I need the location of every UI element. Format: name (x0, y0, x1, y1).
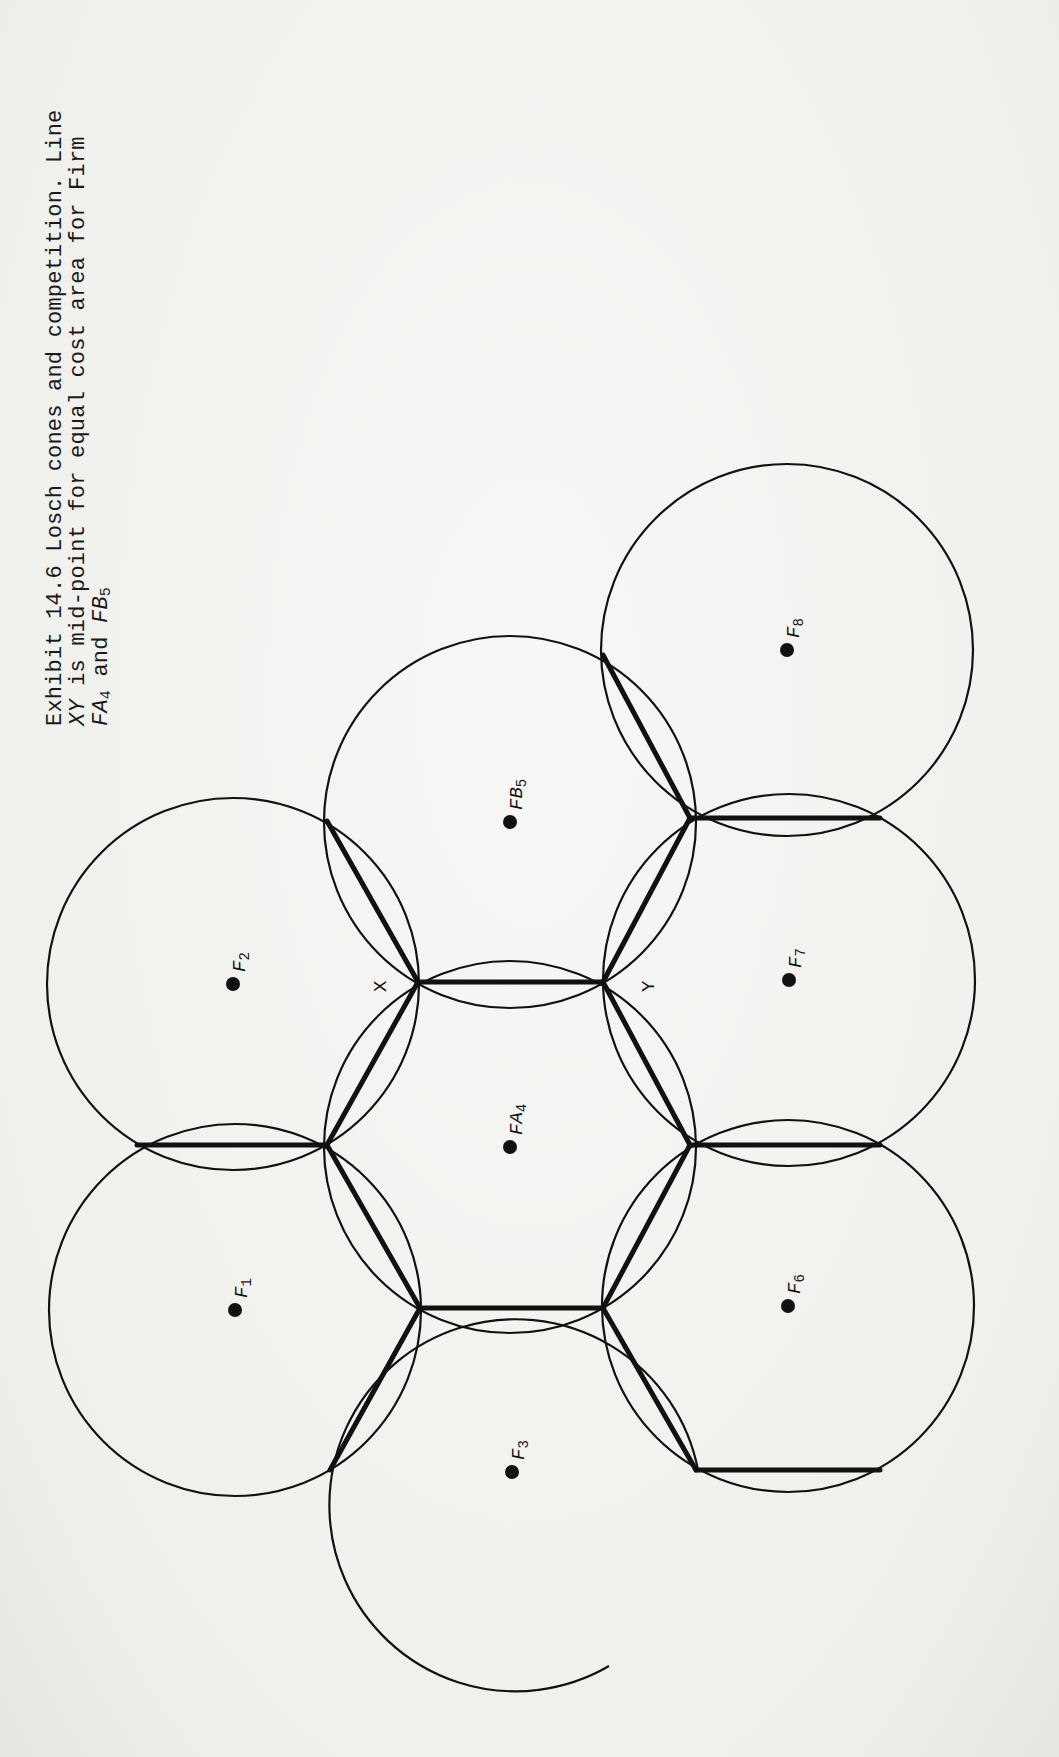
firm-dot-f3 (505, 1465, 519, 1479)
label-f1: F1 (231, 1278, 255, 1298)
label-f7: F7 (785, 948, 809, 968)
boundary-lines (137, 655, 880, 1470)
label-point-y: Y (638, 980, 660, 992)
market-area-circles (47, 464, 975, 1691)
firm-dot-f8 (780, 643, 794, 657)
firm-dot-fa4 (503, 1140, 517, 1154)
firm-dot-f7 (782, 973, 796, 987)
label-point-x: X (370, 980, 392, 992)
firm-dot-f1 (228, 1303, 242, 1317)
label-f3: F3 (508, 1440, 532, 1460)
losch-cones-diagram: F1 F2 F3 FA4 FB5 F6 F7 F8 X Y (0, 0, 1059, 1757)
firm-locations (226, 643, 796, 1479)
book-page: Exhibit 14.6 Losch cones and competition… (0, 0, 1059, 1757)
boundary-line (603, 818, 690, 982)
boundary-line (603, 655, 690, 818)
boundary-line (603, 1308, 696, 1470)
label-f2: F2 (229, 952, 253, 972)
firm-dot-fb5 (503, 815, 517, 829)
label-fa4: FA4 (506, 1104, 530, 1135)
firm-dot-f2 (226, 977, 240, 991)
boundary-line (330, 1308, 420, 1470)
label-f8: F8 (783, 618, 807, 638)
label-fb5: FB5 (506, 779, 530, 810)
boundary-line (327, 982, 418, 1145)
label-f6: F6 (784, 1274, 808, 1294)
firm-dot-f6 (781, 1299, 795, 1313)
